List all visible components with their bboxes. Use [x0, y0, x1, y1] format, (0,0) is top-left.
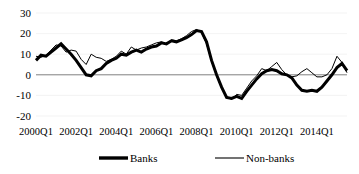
y-tick-label: 0: [26, 69, 32, 81]
x-tick-label: 2004Q1: [99, 126, 133, 137]
y-tick-label: 30: [20, 7, 32, 19]
x-axis-tick-labels: 2000Q12002Q12004Q12006Q12008Q12010Q12012…: [19, 126, 334, 137]
x-tick-label: 2014Q1: [300, 126, 334, 137]
legend-label-banks: Banks: [130, 152, 158, 164]
x-tick-label: 2010Q1: [220, 126, 254, 137]
legend-label-non-banks: Non-banks: [246, 152, 294, 164]
chart-plot-area: 3020100-10-20 2000Q12002Q12004Q12006Q120…: [0, 0, 359, 174]
y-tick-label: -10: [16, 89, 31, 101]
y-tick-label: 10: [20, 48, 32, 60]
y-tick-label: 20: [20, 27, 32, 39]
chart-root: 3020100-10-20 2000Q12002Q12004Q12006Q120…: [0, 0, 359, 174]
x-tick-label: 2008Q1: [180, 126, 214, 137]
y-tick-label: -20: [16, 110, 31, 122]
x-tick-label: 2000Q1: [19, 126, 53, 137]
chart-svg: 3020100-10-20 2000Q12002Q12004Q12006Q120…: [0, 0, 359, 174]
series-lines: [36, 29, 347, 99]
chart-legend: BanksNon-banks: [99, 152, 294, 164]
x-tick-label: 2006Q1: [139, 126, 173, 137]
series-line-banks: [36, 31, 347, 99]
x-tick-label: 2012Q1: [260, 126, 294, 137]
x-tick-label: 2002Q1: [59, 126, 93, 137]
y-axis-tick-labels: 3020100-10-20: [16, 7, 31, 122]
y-gridlines: [36, 13, 347, 116]
